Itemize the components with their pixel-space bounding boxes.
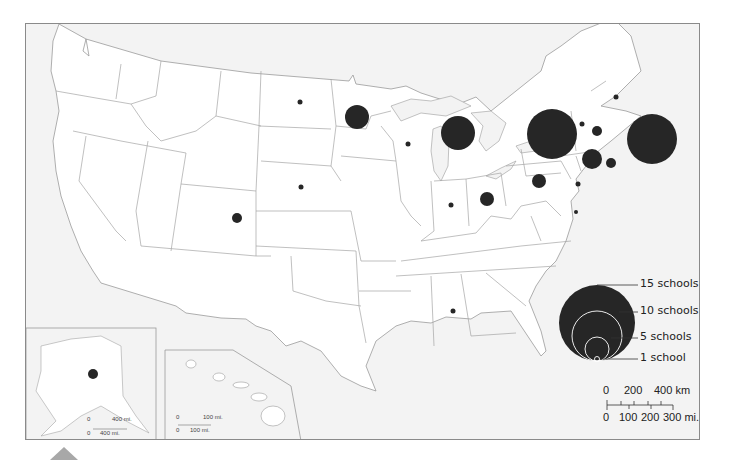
symbol-nebraska: [299, 185, 304, 190]
scale-km-400: 400 km: [654, 384, 690, 396]
symbol-colorado: [232, 213, 242, 223]
symbol-delaware: [574, 210, 578, 214]
scale-mi-300: 300 mi.: [663, 411, 699, 423]
scale-mi-200: 200: [641, 411, 659, 423]
symbol-new-hampshire: [592, 126, 602, 136]
alaska-scale-top-0: 0: [87, 416, 90, 422]
symbol-rhode-island: [606, 158, 616, 168]
symbol-alabama: [451, 309, 456, 314]
symbol-vermont: [580, 122, 585, 127]
scale-km-200: 200: [624, 384, 642, 396]
up-arrow-icon[interactable]: [50, 447, 78, 460]
hawaii-scale-top-0: 0: [176, 414, 179, 420]
alaska-scale-bottom-0: 0: [87, 430, 90, 436]
hawaii-scale-top-100: 100 mi.: [203, 414, 223, 420]
symbol-connecticut: [582, 149, 602, 169]
symbol-michigan: [441, 116, 475, 150]
legend-label-15: 15 schools: [640, 277, 699, 290]
symbol-ohio: [480, 192, 494, 206]
legend-circles: [559, 285, 638, 362]
symbol-new-york: [527, 109, 577, 159]
legend-label-10: 10 schools: [640, 304, 699, 317]
symbol-new-jersey: [576, 182, 581, 187]
symbol-maine: [614, 95, 619, 100]
hawaii-scale-bottom-0: 0: [176, 427, 179, 433]
alaska-scale-bottom-400: 400 mi.: [100, 430, 120, 436]
scale-mi-0: 0: [603, 411, 609, 423]
scale-mi-100: 100: [619, 411, 637, 423]
symbol-alaska: [88, 369, 98, 379]
symbol-indiana: [449, 203, 454, 208]
hawaii-scale-bottom-100: 100 mi.: [190, 427, 210, 433]
symbol-pennsylvania: [532, 174, 546, 188]
alaska-scale-top-400: 400 mi.: [112, 416, 132, 422]
map-frame: [25, 23, 700, 440]
symbol-minnesota: [345, 105, 369, 129]
school-symbols: [26, 24, 700, 440]
scale-km-0: 0: [603, 384, 609, 396]
symbol-wisconsin: [406, 142, 411, 147]
legend-label-1: 1 school: [640, 351, 686, 364]
scale-bar: [607, 400, 673, 410]
symbol-massachusetts: [627, 114, 677, 164]
symbol-north-dakota: [298, 100, 303, 105]
legend-label-5: 5 schools: [640, 330, 692, 343]
